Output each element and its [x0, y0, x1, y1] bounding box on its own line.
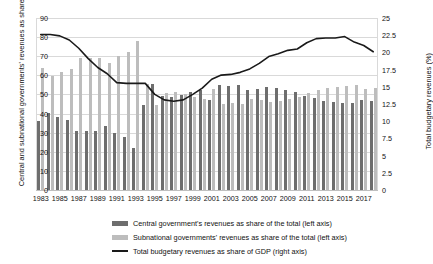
left-tick-label: 80 [18, 33, 48, 42]
right-axis-title: Total budgetary revenues (%) [425, 16, 433, 186]
right-tick-label: 0 [382, 186, 416, 195]
legend-label: Total budgetary revenues as share of GDP… [133, 247, 307, 256]
right-tick-label: 17.5 [382, 66, 416, 75]
gridline [36, 190, 378, 191]
right-tick-label: 7.5 [382, 134, 416, 143]
left-tick-label: 70 [18, 52, 48, 61]
total-revenue-line [41, 35, 374, 102]
left-tick-label: 40 [18, 110, 48, 119]
right-tick-label: 25 [382, 14, 416, 23]
right-tick-label: 5 [382, 152, 416, 161]
legend-swatch-central [112, 221, 128, 226]
right-tick-label: 2.5 [382, 169, 416, 178]
left-tick-label: 20 [18, 148, 48, 157]
legend-item: Subnational governments' revenues as sha… [112, 230, 362, 244]
x-tick-label: 2017 [350, 194, 378, 203]
right-tick-label: 22.5 [382, 31, 416, 40]
legend-label: Central government's revenues as share o… [133, 219, 332, 228]
right-tick-label: 20 [382, 48, 416, 57]
right-tick-label: 10 [382, 117, 416, 126]
legend-label: Subnational governments' revenues as sha… [133, 233, 347, 242]
legend-swatch-line [112, 250, 128, 252]
left-tick-label: 30 [18, 129, 48, 138]
line-series [36, 18, 378, 190]
plot-area [36, 18, 378, 190]
right-tick-label: 15 [382, 83, 416, 92]
left-tick-label: 60 [18, 71, 48, 80]
legend-item: Total budgetary revenues as share of GDP… [112, 244, 362, 258]
left-tick-label: 10 [18, 167, 48, 176]
legend-item: Central government's revenues as share o… [112, 216, 362, 230]
right-tick-label: 12.5 [382, 100, 416, 109]
left-tick-label: 50 [18, 90, 48, 99]
left-tick-label: 90 [18, 14, 48, 23]
legend-swatch-subnational [112, 235, 128, 240]
legend: Central government's revenues as share o… [112, 216, 362, 258]
